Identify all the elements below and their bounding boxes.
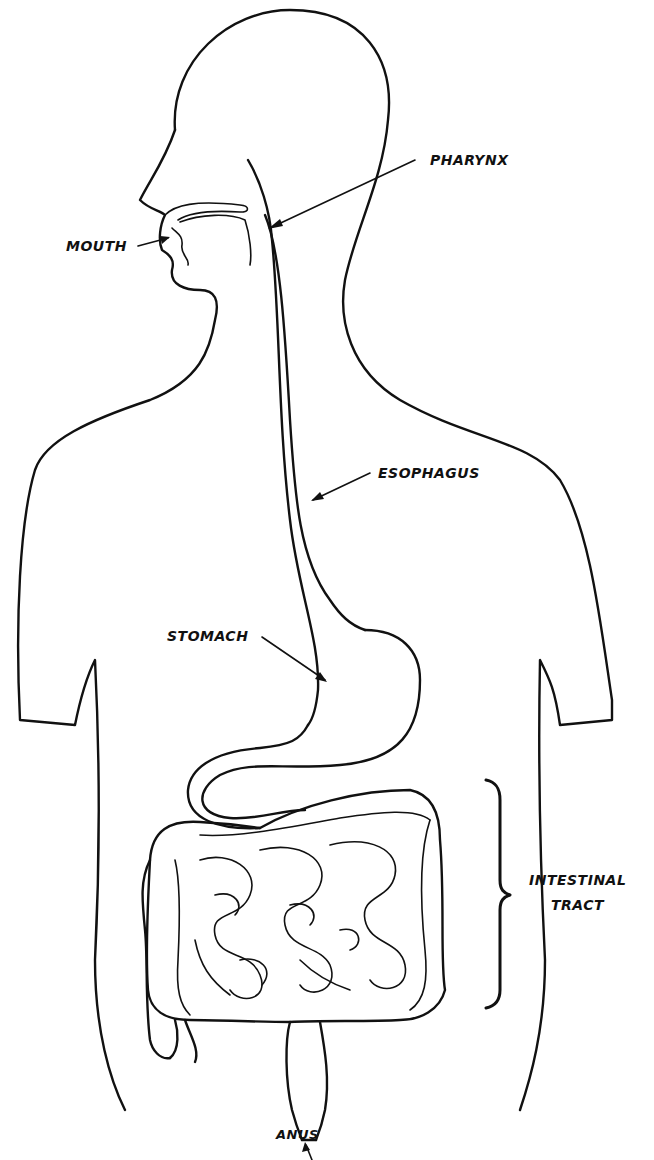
digestive-system-diagram [0, 0, 654, 1160]
label-mouth: MOUTH [66, 238, 127, 254]
rectum [286, 1022, 302, 1140]
label-intestinal-tract-line2: TRACT [551, 897, 604, 913]
pharynx-leader [270, 160, 415, 228]
small-intestine [200, 857, 262, 998]
face-profile [18, 130, 217, 1110]
label-esophagus: ESOPHAGUS [378, 465, 480, 481]
label-pharynx: PHARYNX [430, 152, 508, 168]
body-outline-drawing [0, 0, 654, 1160]
label-anus: ANUS [276, 1127, 319, 1142]
intestinal-tract-brace [486, 780, 510, 1008]
esophagus-wall-right [265, 215, 365, 630]
label-intestinal-tract-line1: INTESTINAL [529, 872, 626, 888]
head-outline [175, 10, 612, 1110]
label-stomach: STOMACH [167, 628, 248, 644]
pharynx-wall-left [248, 160, 318, 725]
